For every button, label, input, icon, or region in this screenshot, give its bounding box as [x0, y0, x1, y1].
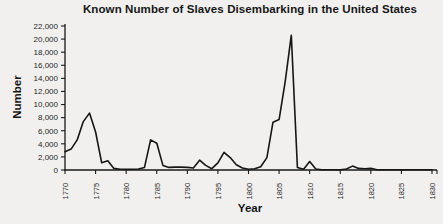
y-tick-label: 6,000	[38, 127, 59, 136]
y-tick-label: 4,000	[38, 140, 59, 149]
x-tick-label: 1775	[92, 183, 101, 200]
x-tick-label: 1810	[306, 183, 315, 200]
x-axis-title: Year	[57, 202, 443, 214]
y-tick-label: 22,000	[34, 22, 59, 31]
y-tick-label: 20,000	[34, 35, 59, 44]
chart-plot: 02,0004,0006,0008,00010,00012,00014,0001…	[0, 0, 443, 224]
x-tick-label: 1820	[367, 183, 376, 200]
x-tick-label: 1815	[336, 183, 345, 200]
x-tick-label: 1830	[428, 183, 437, 200]
y-tick-label: 16,000	[34, 61, 59, 70]
x-tick-label: 1805	[275, 183, 284, 200]
x-tick-label: 1795	[214, 183, 223, 200]
y-tick-label: 14,000	[34, 74, 59, 83]
y-tick-label: 10,000	[34, 100, 59, 109]
x-tick-label: 1780	[122, 183, 131, 200]
x-tick-label: 1825	[397, 183, 406, 200]
y-tick-label: 18,000	[34, 48, 59, 57]
x-tick-label: 1790	[183, 183, 192, 200]
chart: Known Number of Slaves Disembarking in t…	[0, 0, 443, 224]
y-tick-label: 0	[54, 166, 59, 175]
data-series-line	[65, 35, 432, 170]
x-tick-label: 1785	[153, 183, 162, 200]
y-tick-label: 8,000	[38, 113, 59, 122]
y-tick-label: 2,000	[38, 153, 59, 162]
x-tick-label: 1770	[61, 183, 70, 200]
x-tick-label: 1800	[245, 183, 254, 200]
y-tick-label: 12,000	[34, 87, 59, 96]
